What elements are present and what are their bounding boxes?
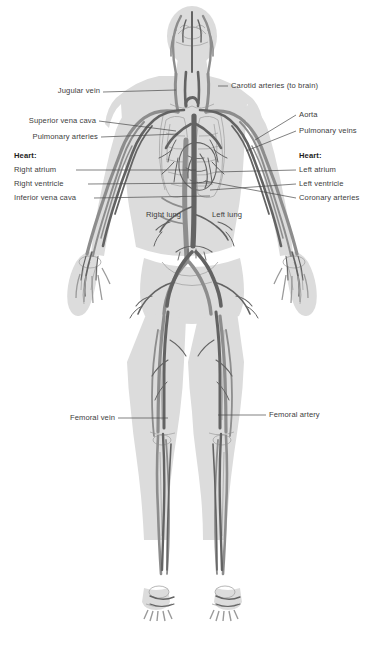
label-right-lung: Right lung	[146, 210, 181, 220]
label-femoral-vein: Femoral vein	[70, 413, 115, 423]
circulatory-system-figure: Jugular vein Carotid arteries (to brain)…	[0, 0, 384, 646]
label-pulmonary-arteries: Pulmonary arteries	[32, 132, 98, 142]
label-heart-header-right: Heart:	[299, 151, 322, 161]
label-left-atrium: Left atrium	[299, 165, 336, 175]
anatomy-illustration	[0, 0, 384, 646]
label-heart-header-left: Heart:	[14, 151, 37, 161]
label-right-atrium: Right atrium	[14, 165, 56, 175]
label-inferior-vena-cava: Inferior vena cava	[14, 193, 76, 203]
toes-group	[144, 610, 238, 621]
label-left-lung: Left lung	[212, 210, 242, 220]
label-carotid-arteries: Carotid arteries (to brain)	[231, 81, 318, 91]
label-jugular-vein: Jugular vein	[58, 86, 100, 96]
label-superior-vena-cava: Superior vena cava	[29, 116, 96, 126]
label-femoral-artery: Femoral artery	[269, 410, 320, 420]
label-right-ventricle: Right ventricle	[14, 179, 64, 189]
label-aorta: Aorta	[299, 110, 318, 120]
label-left-ventricle: Left ventricle	[299, 179, 343, 189]
label-coronary-arteries: Coronary arteries	[299, 193, 359, 203]
label-pulmonary-veins: Pulmonary veins	[299, 126, 357, 136]
